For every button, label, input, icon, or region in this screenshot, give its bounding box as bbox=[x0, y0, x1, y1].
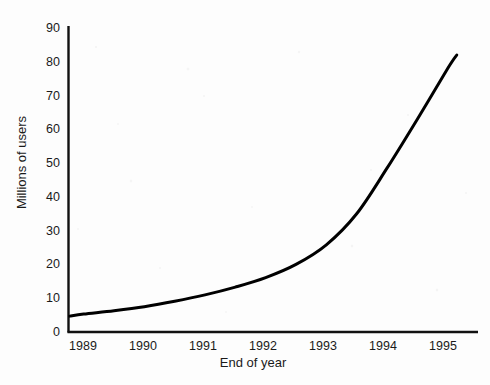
x-tick-label-1993: 1993 bbox=[299, 340, 347, 353]
x-tick-label-1995: 1995 bbox=[419, 340, 467, 353]
x-tick-label-1992: 1992 bbox=[239, 340, 287, 353]
y-tick-label-50: 50 bbox=[34, 157, 60, 170]
x-tick-label-1990: 1990 bbox=[119, 340, 167, 353]
y-tick-label-70: 70 bbox=[34, 90, 60, 103]
y-tick-label-60: 60 bbox=[34, 123, 60, 136]
y-tick-label-90: 90 bbox=[34, 22, 60, 35]
y-tick-label-10: 10 bbox=[34, 292, 60, 305]
chart-figure: 90 80 70 60 50 40 30 20 10 0 1989 1990 1… bbox=[0, 0, 490, 385]
x-tick-label-1991: 1991 bbox=[179, 340, 227, 353]
y-tick-label-20: 20 bbox=[34, 258, 60, 271]
x-tick-label-1994: 1994 bbox=[359, 340, 407, 353]
x-axis-title: End of year bbox=[183, 355, 323, 370]
x-tick-label-1989: 1989 bbox=[59, 340, 107, 353]
y-tick-label-30: 30 bbox=[34, 225, 60, 238]
y-tick-label-0: 0 bbox=[34, 326, 60, 339]
y-axis-title: Millions of users bbox=[14, 98, 29, 228]
y-tick-label-40: 40 bbox=[34, 191, 60, 204]
data-series-line bbox=[70, 55, 457, 316]
y-tick-label-80: 80 bbox=[34, 56, 60, 69]
plot-canvas bbox=[0, 0, 490, 385]
